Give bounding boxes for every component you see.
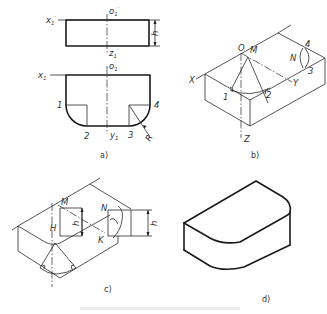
label-X: X — [188, 75, 195, 85]
arc-1-2 — [230, 88, 270, 94]
label-h: h — [150, 31, 160, 36]
solid-top-front-edge — [184, 212, 290, 243]
label-h-left: h — [71, 221, 81, 226]
label-point-4: 4 — [154, 100, 159, 110]
label-o1: o1 — [109, 61, 118, 72]
label-N: N — [290, 53, 297, 63]
label-y1: y1 — [109, 130, 119, 141]
arc-3-4-outer — [305, 48, 309, 68]
label-R: R — [143, 133, 155, 143]
caption-a: a) — [100, 151, 108, 160]
axis-extension-top — [90, 178, 100, 184]
solid-top-back-outline — [184, 181, 290, 245]
label-z1-prime: z1′ — [108, 48, 119, 59]
label-point-4: 4 — [305, 39, 310, 49]
label-x1: x1 — [37, 70, 47, 81]
diagonal-centerline — [58, 205, 105, 233]
label-Y: Y — [293, 78, 299, 88]
arc-N-K — [113, 206, 123, 238]
label-M: M — [61, 197, 69, 207]
label-point-3: 3 — [308, 66, 313, 76]
x-axis — [196, 74, 205, 79]
caption-c: c) — [104, 285, 112, 294]
arc-3-4-inner — [300, 48, 303, 68]
faint-caption-text — [80, 307, 240, 310]
arc-small — [110, 219, 118, 224]
label-K: K — [98, 235, 105, 245]
construction-line-2 — [248, 57, 268, 103]
label-h-right: h — [149, 221, 159, 226]
construction-rect-N — [108, 210, 131, 236]
construction-line-H-1 — [40, 243, 55, 268]
panel-a: x1′ o1′ z1′ h x1 o1 y1 1 2 3 4 R a) — [37, 6, 160, 160]
diagram-canvas: x1′ o1′ z1′ h x1 o1 y1 1 2 3 4 R a) — [0, 0, 327, 314]
label-point-2: 2 — [84, 131, 89, 141]
label-H: H — [50, 223, 57, 233]
box-right-face — [250, 58, 325, 126]
box-top-back-edges — [18, 184, 131, 226]
caption-d: d) — [262, 295, 270, 304]
label-M: M — [250, 45, 258, 55]
panel-c: M H N K h h c) — [12, 178, 159, 294]
label-O: O — [238, 43, 245, 53]
y-axis — [241, 53, 292, 82]
construction-line-1 — [232, 57, 248, 88]
label-point-1: 1 — [223, 92, 228, 102]
construction-line-H-2 — [55, 243, 76, 268]
label-Z: Z — [243, 134, 250, 144]
axis-extension-left — [12, 226, 18, 230]
solid-bottom-edge — [184, 245, 290, 269]
label-point-1: 1 — [57, 100, 62, 110]
label-N: N — [101, 203, 108, 213]
panel-b: O M X Y Z 1 2 3 4 N b) — [188, 25, 325, 160]
axis-extension — [278, 25, 291, 33]
label-x1-prime: x1′ — [45, 15, 57, 26]
top-view-rect — [66, 20, 149, 46]
label-point-2: 2 — [266, 90, 271, 100]
label-o1-prime: o1′ — [109, 6, 120, 17]
label-point-3: 3 — [128, 130, 133, 140]
panel-d: d) — [184, 181, 290, 304]
box-front-top-edge — [18, 215, 110, 244]
caption-b: b) — [251, 151, 259, 160]
